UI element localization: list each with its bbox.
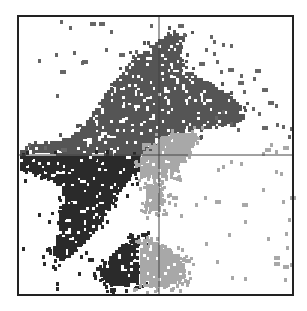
- event-point: [288, 218, 291, 222]
- event-point: [216, 60, 219, 64]
- event-point: [230, 44, 233, 48]
- event-point: [60, 70, 66, 74]
- event-point: [199, 62, 205, 66]
- event-point: [258, 112, 261, 116]
- event-point: [280, 172, 283, 176]
- event-point: [73, 51, 76, 55]
- event-point: [70, 188, 73, 192]
- event-point: [78, 272, 81, 276]
- event-point: [195, 203, 198, 207]
- event-point: [244, 220, 247, 224]
- event-point: [216, 260, 219, 264]
- scatter-plot: [0, 0, 307, 311]
- event-point: [56, 282, 59, 286]
- event-point: [210, 35, 213, 39]
- event-point: [44, 146, 47, 150]
- event-point: [88, 258, 94, 262]
- event-point: [217, 168, 220, 172]
- event-point: [262, 126, 268, 130]
- event-point: [178, 24, 184, 28]
- event-point: [110, 288, 116, 292]
- event-point: [228, 233, 231, 237]
- event-point: [34, 170, 37, 174]
- event-point: [205, 242, 208, 246]
- event-point: [183, 33, 186, 37]
- event-point: [172, 196, 178, 200]
- event-point: [276, 123, 279, 127]
- event-point: [230, 160, 233, 164]
- event-point: [38, 59, 41, 63]
- event-point: [25, 162, 28, 166]
- event-point: [165, 175, 168, 179]
- event-point: [180, 214, 183, 218]
- event-point: [150, 24, 153, 28]
- event-point: [220, 70, 223, 74]
- event-point: [90, 22, 96, 26]
- event-point: [52, 265, 55, 269]
- event-point: [213, 40, 216, 44]
- event-point: [265, 148, 271, 152]
- event-point: [231, 276, 234, 280]
- event-point: [28, 143, 31, 147]
- event-point: [275, 170, 278, 174]
- event-point: [286, 246, 289, 250]
- event-point: [58, 196, 61, 200]
- event-point: [174, 203, 177, 207]
- event-point: [237, 128, 240, 132]
- event-point: [110, 30, 113, 34]
- event-point: [252, 107, 255, 111]
- event-point: [81, 61, 84, 65]
- event-point: [170, 168, 176, 172]
- event-point: [213, 52, 216, 56]
- event-point: [61, 148, 67, 152]
- event-point: [288, 135, 291, 139]
- event-point: [282, 200, 285, 204]
- event-point: [56, 94, 59, 98]
- event-point: [285, 232, 288, 236]
- event-point: [275, 150, 278, 154]
- event-point: [96, 267, 99, 271]
- event-point: [60, 20, 63, 24]
- event-point: [22, 247, 25, 251]
- event-point: [55, 176, 58, 180]
- event-point: [240, 162, 243, 166]
- event-point: [204, 196, 207, 200]
- event-point: [243, 90, 246, 94]
- event-point: [103, 282, 106, 286]
- event-point: [215, 116, 218, 120]
- event-point: [238, 81, 244, 85]
- event-point: [222, 43, 225, 47]
- event-point: [42, 255, 45, 259]
- event-point: [268, 101, 274, 105]
- event-point: [135, 50, 138, 54]
- event-point: [283, 265, 289, 269]
- event-point: [270, 143, 273, 147]
- event-point: [283, 146, 289, 150]
- event-point: [274, 256, 280, 260]
- event-point: [222, 165, 225, 169]
- event-point: [205, 48, 208, 52]
- event-point: [240, 74, 243, 78]
- event-point: [228, 68, 234, 72]
- event-point: [215, 200, 221, 204]
- event-point: [55, 53, 58, 57]
- event-point: [262, 88, 268, 92]
- event-point: [267, 237, 270, 241]
- event-point: [38, 213, 41, 217]
- event-point: [99, 22, 105, 26]
- event-point: [80, 255, 83, 259]
- event-point: [45, 168, 48, 172]
- event-point: [105, 48, 108, 52]
- event-point: [284, 278, 287, 282]
- event-point: [40, 176, 43, 180]
- event-point: [242, 203, 248, 207]
- event-point: [230, 122, 233, 126]
- event-point: [253, 77, 256, 81]
- event-point: [244, 277, 247, 281]
- event-point: [222, 110, 225, 114]
- event-point: [275, 104, 278, 108]
- event-point: [48, 220, 51, 224]
- event-point: [255, 69, 261, 73]
- event-point: [262, 188, 265, 192]
- event-point: [119, 53, 125, 57]
